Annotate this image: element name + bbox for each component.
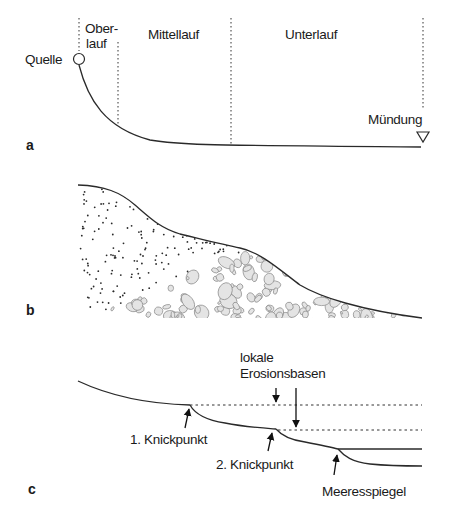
profile-segment-1	[78, 381, 190, 405]
label-knickpoint-2: 2. Knickpunkt	[216, 457, 294, 472]
panel-letter-c: c	[28, 481, 36, 497]
panel-c-knickpoints: lokale Erosionsbasen 1. Knickpunkt 2. Kn…	[28, 350, 422, 499]
label-knickpoint-1: 1. Knickpunkt	[130, 432, 208, 447]
panel-letter-b: b	[26, 302, 35, 318]
label-middle-course: Mittellauf	[148, 27, 200, 42]
label-sea-level: Meeresspiegel	[322, 484, 406, 499]
label-source: Quelle	[25, 52, 62, 67]
panel-b-sediment-profile: b	[26, 185, 425, 330]
label-lower-course: Unterlauf	[285, 27, 338, 42]
label-mouth: Mündung	[368, 112, 422, 127]
river-profile-curve	[79, 65, 421, 147]
arrow-knickpoint-2	[268, 433, 272, 451]
panel-a-longitudinal-profile: Quelle Ober- lauf Mittellauf Unterlauf M…	[25, 18, 429, 153]
mouth-triangle-icon	[417, 132, 429, 142]
arrow-knickpoint-1	[185, 409, 189, 428]
label-upper-course-2: lauf	[86, 36, 107, 51]
label-local-base-1: lokale	[240, 350, 273, 365]
label-local-base-2: Erosionsbasen	[240, 366, 325, 381]
profile-segment-4	[338, 449, 422, 466]
label-upper-course-1: Ober-	[85, 21, 118, 36]
profile-segment-2	[190, 405, 276, 429]
source-circle-icon	[74, 54, 85, 65]
arrow-sea-level	[334, 455, 337, 475]
sediment-fill	[80, 185, 425, 330]
panel-letter-a: a	[26, 137, 34, 153]
profile-segment-3	[276, 429, 338, 449]
river-profile-diagram: Quelle Ober- lauf Mittellauf Unterlauf M…	[0, 0, 452, 529]
